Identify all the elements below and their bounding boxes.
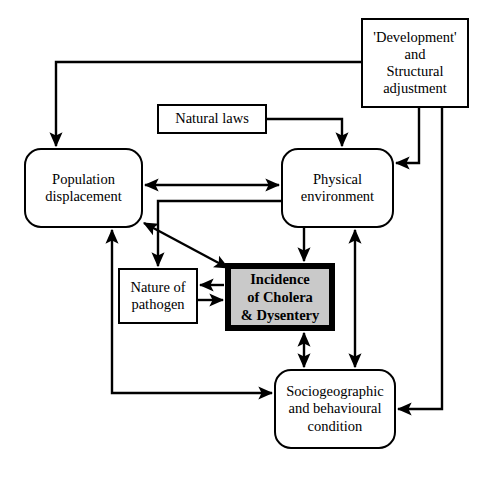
node-natural-laws[interactable]: Natural laws	[157, 104, 267, 134]
node-development[interactable]: 'Development' and Structural adjustment	[361, 18, 469, 108]
node-nature-of-pathogen-label: Nature of pathogen	[130, 279, 185, 313]
node-nature-of-pathogen[interactable]: Nature of pathogen	[118, 268, 198, 324]
edge-natural-laws-to-physical	[267, 119, 342, 146]
diagram-canvas: 'Development' and Structural adjustment …	[0, 0, 489, 484]
edge-development-to-physical	[396, 108, 419, 163]
node-natural-laws-label: Natural laws	[175, 110, 249, 127]
node-incidence-label: Incidence of Cholera & Dysentery	[241, 270, 320, 325]
node-population-displacement[interactable]: Population displacement	[24, 148, 143, 228]
edge-population-incidence	[144, 223, 228, 268]
node-sociogeographic-condition[interactable]: Sociogeographic and behavioural conditio…	[274, 369, 396, 449]
node-population-displacement-label: Population displacement	[45, 171, 122, 205]
node-incidence-of-cholera-and-dysentery[interactable]: Incidence of Cholera & Dysentery	[225, 263, 335, 331]
node-sociogeographic-condition-label: Sociogeographic and behavioural conditio…	[286, 383, 383, 434]
node-physical-environment-label: Physical environment	[301, 171, 374, 205]
edge-physical-to-pathogen	[158, 201, 281, 266]
node-development-label: 'Development' and Structural adjustment	[373, 29, 456, 97]
node-physical-environment[interactable]: Physical environment	[281, 148, 394, 228]
